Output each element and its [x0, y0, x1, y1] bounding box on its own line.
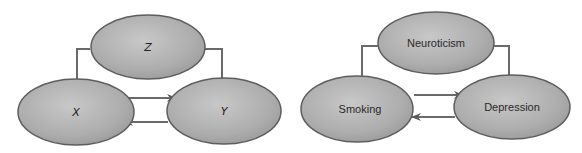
node-neuroticism: Neuroticism	[378, 12, 494, 74]
diagram-example: Neuroticism Smoking Depression	[301, 12, 570, 142]
node-z: Z	[91, 15, 205, 79]
node-label: X	[71, 106, 80, 119]
node-y: Y	[167, 78, 281, 144]
diagram-abstract: Z X Y	[18, 15, 281, 145]
node-label: Z	[143, 41, 152, 54]
node-label: Neuroticism	[407, 37, 465, 49]
node-label: Smoking	[339, 103, 382, 115]
node-smoking: Smoking	[301, 76, 413, 142]
node-depression: Depression	[454, 75, 570, 139]
causal-diagrams: Z X Y Neuroticism Smoking Depression	[0, 0, 582, 153]
node-label: Depression	[484, 101, 540, 113]
node-x: X	[18, 79, 134, 145]
